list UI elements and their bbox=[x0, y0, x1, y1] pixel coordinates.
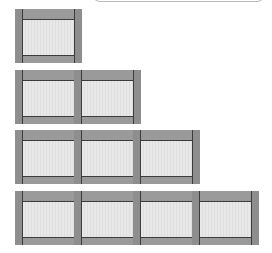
tile-band-top bbox=[141, 130, 192, 141]
tile-stripe bbox=[15, 130, 23, 184]
tile-band-top bbox=[82, 130, 133, 141]
tile-band-top bbox=[200, 191, 251, 202]
tile-pane bbox=[23, 81, 74, 116]
tile bbox=[133, 130, 192, 184]
tile-pane bbox=[141, 141, 192, 176]
tile-band-bottom bbox=[82, 116, 133, 124]
tile-stripe bbox=[74, 70, 82, 124]
tile-band-bottom bbox=[82, 176, 133, 184]
tile-band-bottom bbox=[23, 55, 74, 63]
tile bbox=[74, 130, 133, 184]
tile bbox=[15, 191, 74, 245]
tile-band-top bbox=[23, 191, 74, 202]
pattern-row-4 bbox=[15, 191, 259, 245]
tile-band-top bbox=[82, 191, 133, 202]
tile bbox=[15, 130, 74, 184]
tile-end-stripe bbox=[251, 191, 259, 245]
tile-band-bottom bbox=[82, 237, 133, 245]
tile-pane bbox=[82, 81, 133, 116]
tile-stripe bbox=[74, 191, 82, 245]
tile-band-bottom bbox=[23, 237, 74, 245]
pattern-row-2 bbox=[15, 70, 141, 124]
tile-stripe bbox=[74, 130, 82, 184]
tile bbox=[192, 191, 251, 245]
tile bbox=[74, 70, 133, 124]
tile-end-stripe bbox=[133, 70, 141, 124]
tile-band-bottom bbox=[141, 237, 192, 245]
tile-stripe bbox=[15, 70, 23, 124]
tile-pane bbox=[23, 202, 74, 237]
tile-stripe bbox=[15, 9, 23, 63]
tile-pane bbox=[23, 141, 74, 176]
tile-stripe bbox=[15, 191, 23, 245]
tile-end-stripe bbox=[192, 130, 200, 184]
tile-stripe bbox=[192, 191, 200, 245]
callout-box bbox=[92, 0, 265, 2]
tile-pane bbox=[141, 202, 192, 237]
tile-band-top bbox=[141, 191, 192, 202]
pattern-row-1 bbox=[15, 9, 82, 63]
tile-stripe bbox=[133, 191, 141, 245]
tile-band-bottom bbox=[141, 176, 192, 184]
tile-pane bbox=[82, 202, 133, 237]
tile bbox=[15, 9, 74, 63]
tile-band-bottom bbox=[23, 116, 74, 124]
tile-end-stripe bbox=[74, 9, 82, 63]
tile-band-top bbox=[23, 70, 74, 81]
tile-band-top bbox=[82, 70, 133, 81]
tile-band-bottom bbox=[23, 176, 74, 184]
tile-band-bottom bbox=[200, 237, 251, 245]
tile bbox=[74, 191, 133, 245]
pattern-row-3 bbox=[15, 130, 200, 184]
tile-stripe bbox=[133, 130, 141, 184]
tile bbox=[133, 191, 192, 245]
tile-band-top bbox=[23, 9, 74, 20]
tile-pane bbox=[23, 20, 74, 55]
tile-pane bbox=[200, 202, 251, 237]
tile-pane bbox=[82, 141, 133, 176]
tile bbox=[15, 70, 74, 124]
tile-band-top bbox=[23, 130, 74, 141]
